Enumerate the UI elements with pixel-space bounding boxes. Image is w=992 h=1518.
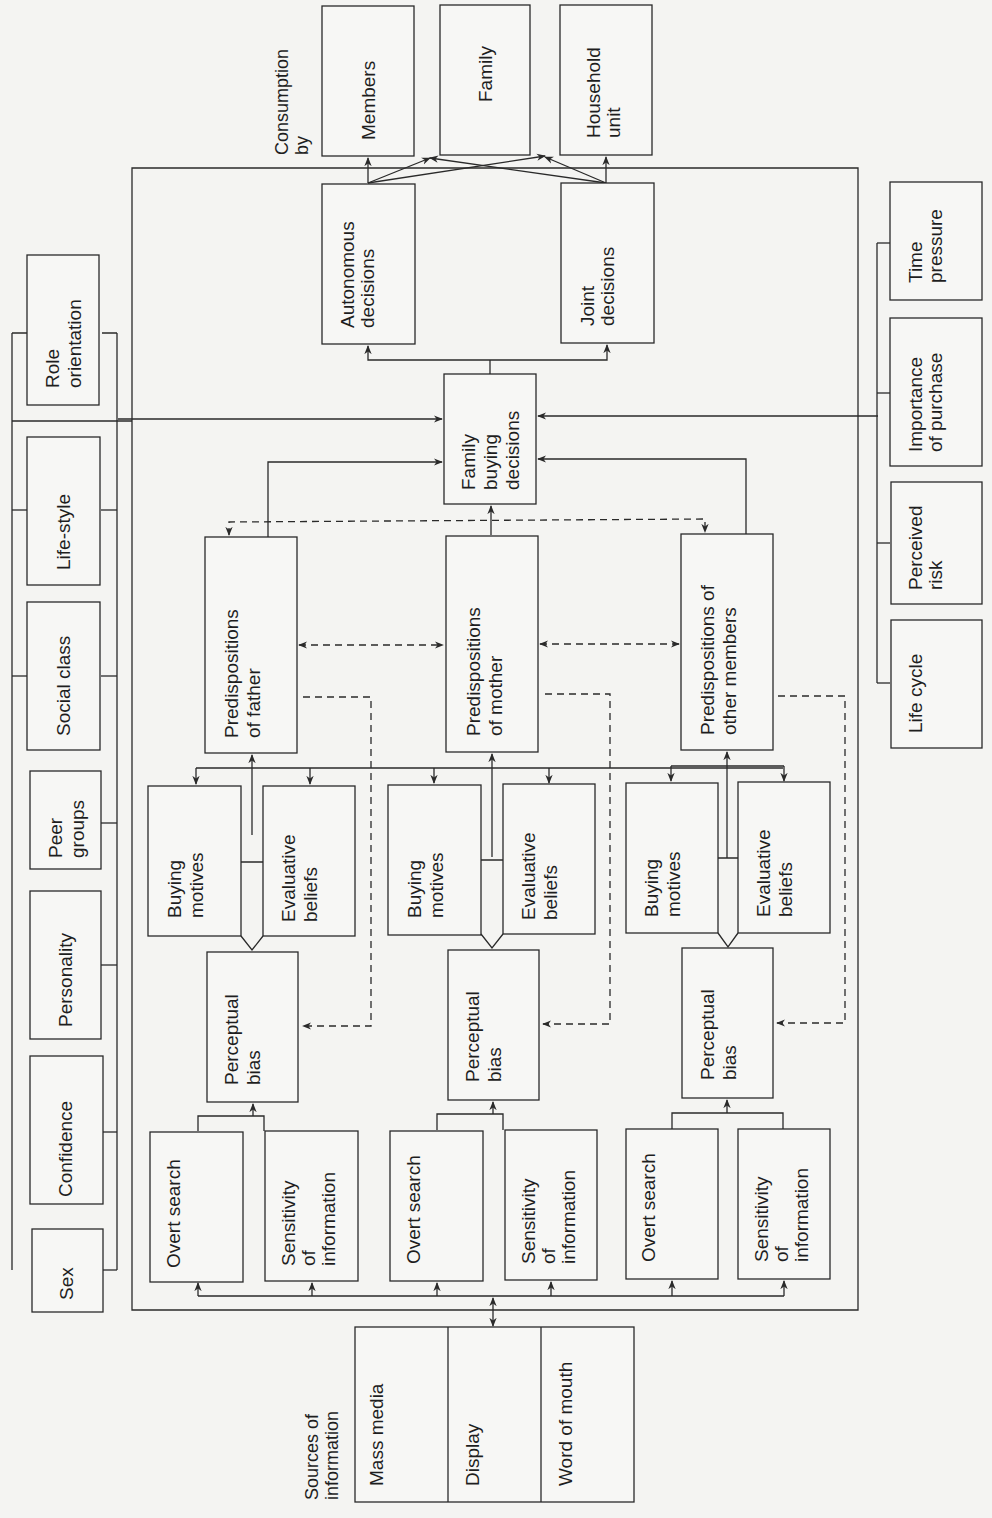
factor-personality-label: Personality — [55, 933, 76, 1027]
eb-father-line1: Evaluative — [278, 834, 299, 922]
member-column-other-members: Predispositions of other members Buying … — [626, 534, 845, 1279]
bm-other-line1: Buying — [641, 859, 662, 917]
pred-father-line2: of father — [243, 668, 264, 738]
buying-motives-other-label: Buying motives — [641, 852, 684, 917]
bm-father-line2: motives — [186, 853, 207, 918]
buying-motives-mother-label: Buying motives — [404, 853, 447, 918]
sources-caption-line2: information — [322, 1411, 342, 1500]
sens-father-line2: of — [298, 1249, 319, 1266]
family-buying-decision-diagram: Consumption by Members Family Household … — [0, 0, 992, 1518]
family-buying-line1: Family — [458, 434, 479, 490]
sens-father-line3: information — [318, 1172, 339, 1266]
pred-mother-line1: Predispositions — [463, 607, 484, 736]
pb-mother-line1: Perceptual — [462, 991, 483, 1082]
risk-line1: Perceived — [905, 506, 926, 591]
sens-other-line1: Sensitivity — [751, 1176, 772, 1262]
bm-mother-line2: motives — [426, 853, 447, 918]
factor-sex-label: Sex — [56, 1267, 77, 1300]
consumption-caption: Consumption by — [272, 49, 312, 155]
overt-search-other-label: Overt search — [638, 1153, 659, 1262]
joint-line2: decisions — [597, 247, 618, 326]
factor-role-orientation-box — [27, 255, 99, 405]
importance-line2: of purchase — [925, 353, 946, 452]
sources-section: Sources of information Mass media Displa… — [302, 1327, 634, 1502]
factor-social-class-label: Social class — [53, 636, 74, 736]
source-word-of-mouth: Word of mouth — [555, 1362, 576, 1486]
eb-father-line2: beliefs — [300, 867, 321, 922]
sens-mother-line1: Sensitivity — [518, 1178, 539, 1264]
bm-mother-line1: Buying — [404, 860, 425, 918]
peer-line1: Peer — [45, 817, 66, 858]
joint-line1: Joint — [577, 285, 598, 326]
sources-caption-line1: Sources of — [302, 1413, 322, 1500]
consumption-section: Consumption by Members Family Household … — [272, 5, 652, 156]
pb-mother-line2: bias — [484, 1047, 505, 1082]
pb-father-line2: bias — [243, 1050, 264, 1085]
time-line1: Time — [905, 241, 926, 283]
eb-other-line1: Evaluative — [753, 829, 774, 917]
information-bus — [198, 1281, 784, 1326]
pred-father-line1: Predispositions — [221, 609, 242, 738]
pred-other-line2: other members — [719, 607, 740, 735]
pb-other-line1: Perceptual — [697, 989, 718, 1080]
overt-search-mother-label: Overt search — [403, 1155, 424, 1264]
sens-mother-line2: of — [538, 1247, 559, 1264]
role-line2: orientation — [64, 299, 85, 388]
autonomous-line1: Autonomous — [337, 221, 358, 328]
sens-father-line1: Sensitivity — [278, 1180, 299, 1266]
left-factors: Role orientation Life-style Social class… — [12, 255, 132, 1312]
eb-mother-line1: Evaluative — [518, 832, 539, 920]
family-buying-line3: decisions — [502, 411, 523, 490]
factor-importance-of-purchase-label: Importance of purchase — [905, 353, 946, 452]
role-line1: Role — [42, 349, 63, 388]
buying-motives-father-label: Buying motives — [164, 853, 207, 918]
sources-caption: Sources of information — [302, 1411, 342, 1500]
eb-other-line2: beliefs — [775, 862, 796, 917]
bm-other-line2: motives — [663, 852, 684, 917]
overt-search-father-label: Overt search — [163, 1159, 184, 1268]
autonomous-line2: decisions — [357, 249, 378, 328]
risk-line2: risk — [925, 560, 946, 590]
family-buying-line2: buying — [480, 434, 501, 490]
family-buying-to-decisions-arrows — [368, 345, 607, 374]
sens-other-line2: of — [771, 1245, 792, 1262]
importance-line1: Importance — [905, 357, 926, 452]
factor-life-style-label: Life-style — [53, 494, 74, 570]
factor-confidence-label: Confidence — [55, 1101, 76, 1197]
pb-father-line1: Perceptual — [221, 994, 242, 1085]
right-factors: Time pressure Importance of purchase Per… — [877, 182, 982, 748]
eb-mother-line2: beliefs — [540, 865, 561, 920]
consumption-members-label: Members — [358, 61, 379, 140]
decision-to-consumption-arrows — [368, 156, 606, 183]
bm-father-line1: Buying — [164, 860, 185, 918]
consumption-family-label: Family — [475, 46, 496, 102]
time-line2: pressure — [925, 209, 946, 283]
pred-mother-line2: of mother — [485, 655, 506, 736]
member-column-father: Predispositions of father Buying motives… — [148, 537, 371, 1282]
consumption-caption-line2: by — [292, 136, 312, 155]
pb-other-line2: bias — [719, 1045, 740, 1080]
peer-line2: groups — [67, 800, 88, 858]
factor-life-cycle-label: Life cycle — [905, 654, 926, 733]
sens-other-line3: information — [791, 1168, 812, 1262]
source-mass-media: Mass media — [366, 1383, 387, 1486]
sens-mother-line3: information — [558, 1170, 579, 1264]
household-line2: unit — [603, 107, 624, 138]
pred-other-line1: Predispositions of — [697, 584, 718, 735]
source-display: Display — [462, 1423, 483, 1486]
household-line1: Household — [583, 47, 604, 138]
consumption-caption-line1: Consumption — [272, 49, 292, 155]
sources-box — [355, 1327, 634, 1502]
